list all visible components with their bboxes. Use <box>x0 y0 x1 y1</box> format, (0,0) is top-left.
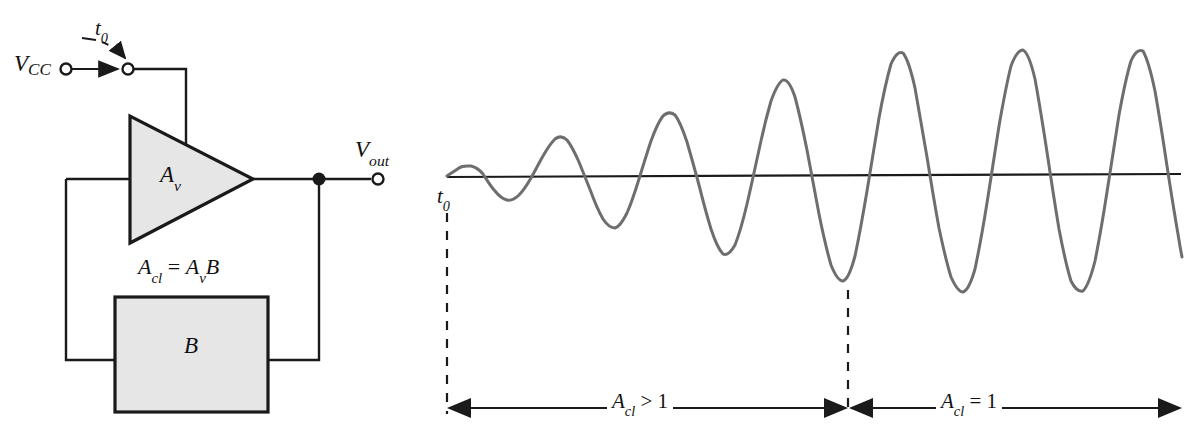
t0-pointer-tick <box>82 38 96 40</box>
amplifier-triangle <box>130 116 253 243</box>
amplifier-gain-label: Av <box>160 163 181 190</box>
acl-eq-v: v <box>199 270 206 286</box>
vout-label-main: V <box>355 137 369 162</box>
region-growing-label: Acl > 1 <box>607 391 673 415</box>
switch-t0-main: t <box>95 16 101 40</box>
vcc-label-main: V <box>14 51 28 76</box>
region-steady-a: A <box>941 389 954 413</box>
waveform-baseline-axis <box>447 174 1181 177</box>
feedback-block-label: B <box>184 334 198 357</box>
vout-terminal-node <box>373 174 384 185</box>
vout-label-sub: out <box>369 152 389 169</box>
switch-contact-node <box>123 64 134 75</box>
region-steady-label: Acl = 1 <box>936 391 1002 415</box>
acl-eq-b: B <box>206 254 219 279</box>
figure-root: VCC t0 Av Acl = AvB B Vout t0 Acl > 1 Ac… <box>0 0 1185 443</box>
waveform-t0-sub: 0 <box>443 198 450 214</box>
waveform-t0-label: t0 <box>437 186 450 210</box>
acl-eq-av: A <box>186 254 199 279</box>
switch-t0-label: t0 <box>95 18 108 42</box>
waveform-t0-main: t <box>437 184 443 208</box>
acl-eq-a: A <box>138 254 151 279</box>
vcc-terminal-node <box>61 64 72 75</box>
region-growing-cl: cl <box>625 403 635 419</box>
vcc-label-sub: CC <box>28 60 51 79</box>
acl-eq-cl: cl <box>151 270 162 286</box>
acl-eq-equals: = <box>162 254 185 279</box>
feedback-return-wire <box>66 179 115 360</box>
region-steady-rel: = 1 <box>964 389 997 413</box>
vcc-label: VCC <box>14 52 51 75</box>
amplifier-gain-main: A <box>160 162 174 187</box>
feedback-sense-wire <box>268 179 319 360</box>
closed-loop-gain-equation: Acl = AvB <box>138 256 219 282</box>
amplifier-gain-sub: v <box>174 177 181 194</box>
region-steady-cl: cl <box>954 403 964 419</box>
region-growing-rel: > 1 <box>635 389 668 413</box>
vout-label: Vout <box>355 138 389 165</box>
figure-canvas <box>0 0 1185 443</box>
region-growing-a: A <box>612 389 625 413</box>
oscillator-output-waveform <box>447 50 1182 292</box>
switch-t0-sub: 0 <box>101 30 108 46</box>
